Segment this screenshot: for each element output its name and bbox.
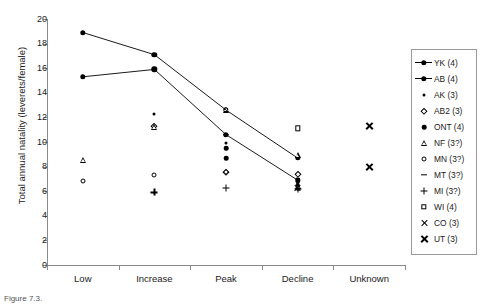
series-connecting-lines (0, 0, 480, 304)
series-line (83, 69, 298, 180)
series-line (83, 33, 298, 158)
natality-scatter-chart: Total annual natality (leverets/female) … (0, 0, 480, 304)
